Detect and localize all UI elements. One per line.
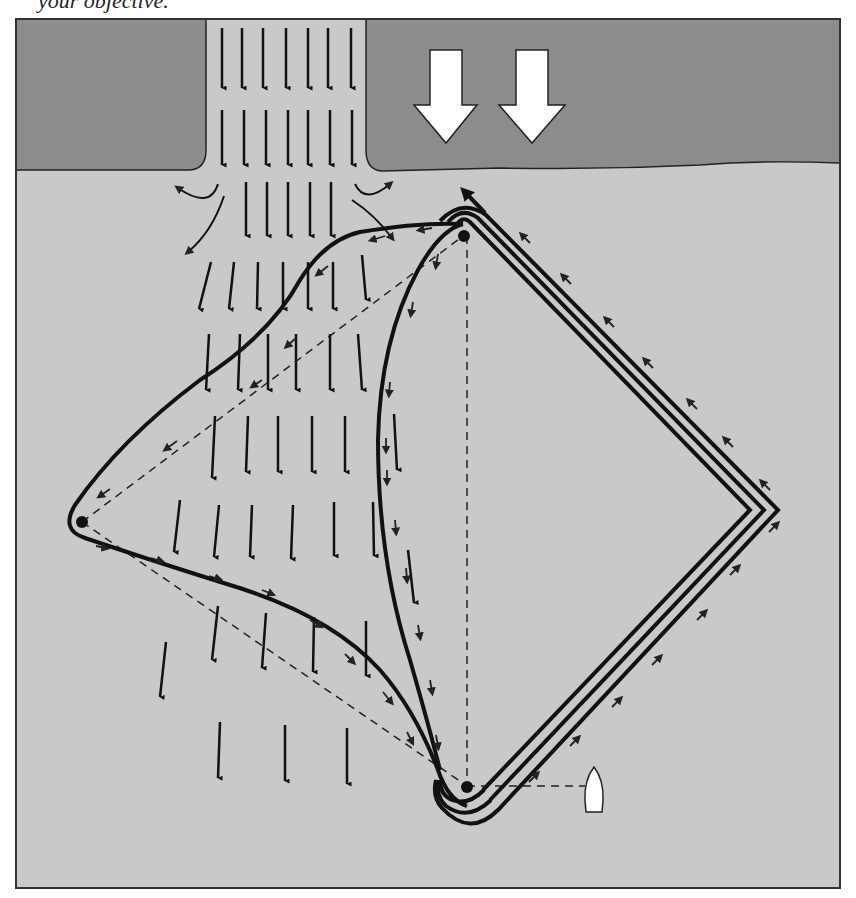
wing-mark [76,516,88,528]
windward-mark [458,230,470,242]
sailing-current-diagram [0,0,856,898]
leeward-mark [461,781,473,793]
land-mass-left [16,19,206,170]
